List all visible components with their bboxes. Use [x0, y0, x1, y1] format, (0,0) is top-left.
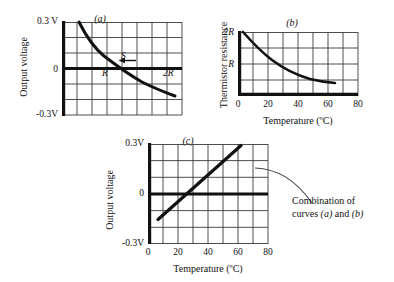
- panel-c-xtick-60: 60: [226, 248, 250, 258]
- panel-c-xtick-20: 20: [166, 248, 190, 258]
- panel-a-ytick-max: 0.3 V: [12, 17, 58, 27]
- panel-a-mark-s: S: [121, 52, 126, 62]
- panel-a-ytick-min: -0.3V: [8, 110, 58, 120]
- chart-panel-a: (a) Output voltage 0.3 V 0 -0.3V: [0, 0, 200, 140]
- panel-b-xtick-20: 20: [256, 100, 280, 110]
- panel-b-title: (b): [272, 18, 312, 28]
- panel-a-mark-2r: 2R: [163, 69, 174, 79]
- panel-b-xtick-40: 40: [286, 100, 310, 110]
- panel-c-ytick-max: 0.3V: [100, 139, 144, 149]
- panel-c-line: [158, 146, 241, 220]
- panel-a-mark-r: R: [102, 69, 108, 79]
- callout-and-word: and: [332, 208, 351, 219]
- callout-combination: Combination of curves (a) and (b): [292, 195, 363, 220]
- callout-ref-a: (a): [321, 208, 333, 219]
- panel-c-plot-area: [148, 144, 268, 244]
- panel-c-xtick-80: 80: [256, 248, 280, 258]
- panel-b-plot-area: [238, 32, 358, 96]
- callout-line-1: Combination of: [292, 195, 363, 208]
- panel-b-ytick-r: R: [202, 60, 234, 70]
- figure-thermistor-linearisation: (a) Output voltage 0.3 V 0 -0.3V: [0, 0, 394, 282]
- panel-c-xtick-0: 0: [136, 248, 160, 258]
- panel-b-xtick-80: 80: [346, 100, 370, 110]
- callout-line-2: curves (a) and (b): [292, 208, 363, 221]
- panel-c-ytick-zero: 0: [100, 189, 144, 199]
- panel-a-curve: [79, 22, 175, 96]
- panel-b-xlabel: Temperature (ºC): [228, 116, 368, 126]
- panel-b-gridlines: [238, 32, 358, 96]
- panel-b-curve: [243, 32, 335, 83]
- panel-b-ytick-2r: 2R: [202, 28, 234, 38]
- callout-curves-word: curves: [292, 208, 321, 219]
- panel-a-ytick-zero: 0: [12, 65, 58, 75]
- panel-c-xtick-40: 40: [196, 248, 220, 258]
- chart-panel-c: (c) Output voltage 0.3V 0 -0.3V: [90, 133, 300, 282]
- panel-b-xtick-60: 60: [316, 100, 340, 110]
- panel-c-ylabel: Output voltage: [105, 152, 115, 248]
- panel-b-xtick-0: 0: [226, 100, 250, 110]
- panel-c-xlabel: Temperature (ºC): [138, 264, 278, 274]
- chart-panel-b: (b) Thermistor resistance 2R R: [200, 0, 394, 140]
- callout-ref-b: (b): [352, 208, 364, 219]
